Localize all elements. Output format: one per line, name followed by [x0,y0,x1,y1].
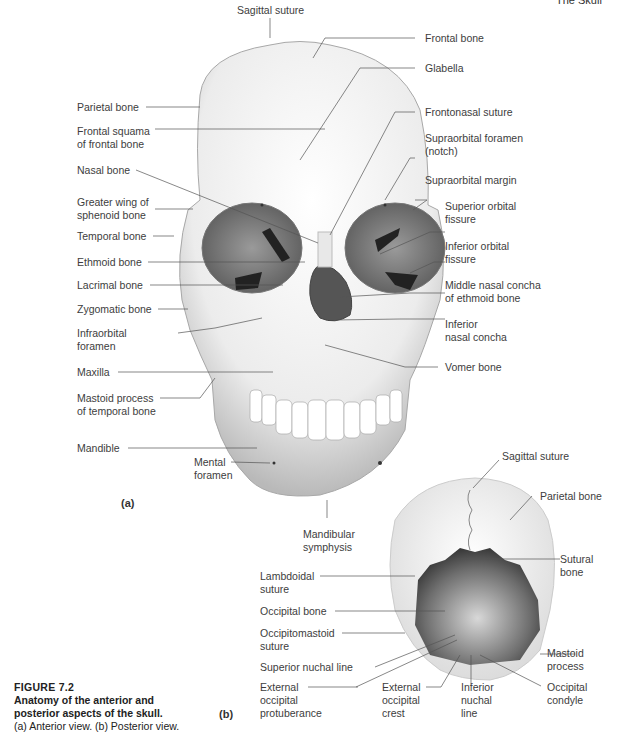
label-line: bone [560,566,583,578]
label-frontal-bone: Frontal bone [425,32,484,45]
label-vomer-bone: Vomer bone [445,361,502,374]
label-line: fissure [445,213,476,225]
label-occipital-bone: Occipital bone [260,605,327,618]
figure-title-line2: posterior aspects of the skull. [14,707,179,720]
anterior-skull [180,42,445,497]
label-supraorbital-margin: Supraorbital margin [425,174,517,187]
label-line: (notch) [425,145,458,157]
label-inferior-nasal-concha: Inferiornasal concha [445,318,507,344]
label-sagittal-suture: Sagittal suture [237,4,304,17]
label-line: Inferior orbital [445,240,509,252]
figure-title-line1: Anatomy of the anterior and [14,694,179,707]
label-superior-nuchal-line: Superior nuchal line [260,661,353,674]
label-zygomatic-bone: Zygomatic bone [77,303,152,316]
label-line: process [547,660,584,672]
label-line: External [382,681,421,693]
label-line: Superior orbital [445,200,516,212]
label-line: Lambdoidal [260,570,314,582]
label-infraorbital-foramen: Infraorbitalforamen [77,327,127,353]
label-line: protuberance [260,707,322,719]
panel-label-b: (b) [219,708,233,720]
label-middle-nasal-concha: Middle nasal conchaof ethmoid bone [445,279,541,305]
label-occipital-condyle: Occipitalcondyle [547,681,587,707]
label-mental-foramen: Mentalforamen [194,456,233,482]
label-line: of frontal bone [77,138,144,150]
label-greater-wing: Greater wing ofsphenoid bone [77,196,149,222]
label-mastoid-process: Mastoid processof temporal bone [77,392,156,418]
label-line: Middle nasal concha [445,279,541,291]
label-line: suture [260,583,289,595]
figure-caption: FIGURE 7.2 Anatomy of the anterior and p… [14,681,179,733]
label-line: crest [382,707,405,719]
label-post-parietal-bone: Parietal bone [540,490,602,503]
label-line: Frontal squama [77,125,150,137]
label-line: Infraorbital [77,327,127,339]
label-line: foramen [77,340,116,352]
label-frontonasal-suture: Frontonasal suture [425,106,513,119]
label-line: Mandibular [303,528,355,540]
label-post-mastoid-process: Mastoidprocess [547,647,584,673]
label-mandible: Mandible [77,442,120,455]
label-line: nasal concha [445,331,507,343]
label-line: Inferior [461,681,494,693]
label-maxilla: Maxilla [77,366,110,379]
label-line: symphysis [303,541,352,553]
label-line: Mastoid [547,647,584,659]
label-line: Mental [194,456,226,468]
label-line: condyle [547,694,583,706]
label-line: External [260,681,299,693]
label-line: occipital [260,694,298,706]
panel-label-a: (a) [121,497,134,509]
figure-description: (a) Anterior view. (b) Posterior view. [14,720,179,733]
label-parietal-bone: Parietal bone [77,101,139,114]
label-lacrimal-bone: Lacrimal bone [77,279,143,292]
label-line: Occipital [547,681,587,693]
label-line: suture [260,640,289,652]
label-superior-orbital-fissure: Superior orbitalfissure [445,200,516,226]
label-line: Inferior [445,318,478,330]
label-glabella: Glabella [425,62,464,75]
label-line: line [461,707,477,719]
label-ext-occipital-crest: Externaloccipitalcrest [382,681,421,720]
label-line: Mastoid process [77,392,153,404]
label-line: nuchal [461,694,492,706]
label-ethmoid-bone: Ethmoid bone [77,256,142,269]
label-temporal-bone: Temporal bone [77,230,146,243]
label-line: fissure [445,253,476,265]
label-lambdoidal-suture: Lambdoidalsuture [260,570,314,596]
label-supraorbital-foramen: Supraorbital foramen(notch) [425,132,523,158]
label-inferior-orbital-fissure: Inferior orbitalfissure [445,240,509,266]
label-line: Supraorbital foramen [425,132,523,144]
label-line: of ethmoid bone [445,292,520,304]
figure-number: FIGURE 7.2 [14,681,179,694]
label-line: occipital [382,694,420,706]
label-inferior-nuchal-line: Inferiornuchalline [461,681,494,720]
label-line: foramen [194,469,233,481]
label-line: of temporal bone [77,405,156,417]
label-ext-occipital-protuberance: Externaloccipitalprotuberance [260,681,322,720]
label-frontal-squama: Frontal squamaof frontal bone [77,125,150,151]
label-line: Greater wing of [77,196,149,208]
label-post-sagittal-suture: Sagittal suture [502,450,569,463]
label-occipitomastoid-suture: Occipitomastoidsuture [260,627,335,653]
label-line: sphenoid bone [77,209,146,221]
label-mandibular-symphysis: Mandibularsymphysis [303,528,355,554]
label-sutural-bone: Suturalbone [560,553,593,579]
label-nasal-bone: Nasal bone [77,164,130,177]
label-line: Sutural [560,553,593,565]
label-line: Occipitomastoid [260,627,335,639]
posterior-skull [390,478,555,680]
